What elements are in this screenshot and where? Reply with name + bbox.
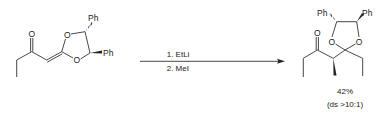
reaction-arrow: 1. EtLi 2. MeI [140,50,285,73]
bond [62,39,66,52]
reactant-structure: O O O Ph Ph [17,13,114,77]
atom-label-O: O [356,37,363,47]
condition-step-1: 1. EtLi [167,50,190,59]
bond [357,22,359,37]
yield-label: 42% [337,87,353,96]
bond [85,32,90,53]
bond [332,22,337,37]
bond [345,44,356,50]
atom-label-O: O [64,30,71,40]
atom-label-O: O [314,28,321,38]
bond [345,50,363,58]
bond [71,32,85,34]
bond [303,50,317,58]
bond [317,50,333,58]
hashed-wedge [85,22,94,32]
product-structure: O O O Ph Ph 42% (ds >10:1) [303,8,372,109]
bond [32,52,47,60]
atom-label-O: O [328,37,335,47]
bond [81,53,91,59]
selectivity-label: (ds >10:1) [327,100,364,109]
atom-label-Ph: Ph [362,8,373,18]
atom-label-Ph: Ph [103,48,114,58]
atom-label-Ph: Ph [317,8,328,18]
bond [333,50,345,58]
bold-wedge [333,58,336,75]
reaction-scheme: O O O Ph Ph 1. EtLi 2. MeI [0,0,388,120]
bond [17,52,32,60]
hashed-wedge [329,13,337,22]
bold-wedge [90,51,102,54]
atom-label-Ph: Ph [88,13,99,23]
bond [62,52,73,58]
atom-label-O: O [28,29,35,39]
condition-step-2: 2. MeI [167,64,189,73]
atom-label-O: O [73,55,80,65]
bond [336,44,346,50]
